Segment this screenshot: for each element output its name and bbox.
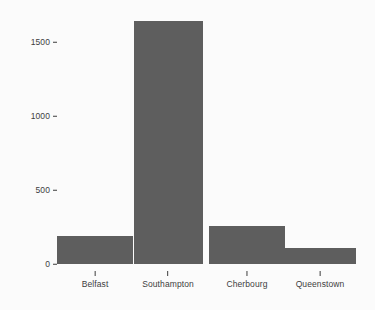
plot-area: 1500 1000 500 0 Belfast <box>0 0 375 310</box>
x-axis-tick-label: Cherbourg <box>226 280 267 289</box>
x-axis-tick-dash-icon <box>246 271 247 276</box>
x-axis-tick-belfast: Belfast <box>82 264 109 289</box>
x-axis-tick-dash-icon <box>319 271 320 276</box>
y-axis-tick-1500: 1500 <box>31 38 57 47</box>
y-axis-tick-dash-icon <box>53 42 57 43</box>
bar-belfast <box>57 236 133 264</box>
y-axis-tick-dash-icon <box>53 116 57 117</box>
x-axis-tick-southampton: Southampton <box>142 264 194 289</box>
y-axis-tick-dash-icon <box>53 190 57 191</box>
x-axis-tick-label: Southampton <box>142 280 194 289</box>
y-axis-tick-label: 0 <box>45 260 50 269</box>
bar-chart-figure: 1500 1000 500 0 Belfast <box>0 0 375 310</box>
bar-southampton <box>134 21 203 264</box>
x-axis-tick-queenstown: Queenstown <box>296 264 345 289</box>
y-axis-tick-label: 1000 <box>31 112 50 121</box>
y-axis-tick-500: 500 <box>36 186 57 195</box>
x-axis-tick-dash-icon <box>95 271 96 276</box>
y-axis: 1500 1000 500 0 <box>0 0 57 310</box>
bar-queenstown <box>285 248 356 264</box>
x-axis-tick-dash-icon <box>167 271 168 276</box>
bar-cherbourg <box>209 226 285 264</box>
y-axis-tick-0: 0 <box>45 260 57 269</box>
y-axis-tick-label: 1500 <box>31 38 50 47</box>
y-axis-tick-label: 500 <box>36 186 50 195</box>
x-axis-tick-cherbourg: Cherbourg <box>226 264 267 289</box>
x-axis-tick-label: Queenstown <box>296 280 345 289</box>
x-axis-tick-label: Belfast <box>82 280 109 289</box>
y-axis-tick-1000: 1000 <box>31 112 57 121</box>
